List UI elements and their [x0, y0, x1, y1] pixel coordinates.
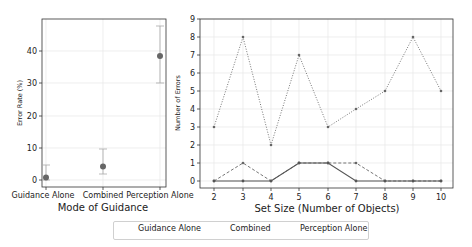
x-tick-label: 5	[296, 193, 301, 202]
x-tick-label: Guidance Alone	[12, 191, 75, 200]
left-panel: 0 10 20 30 40 Guidance Alone Combined Pe…	[12, 19, 194, 213]
y-tick-label: 1	[190, 159, 195, 168]
y-tick-label: 0	[32, 176, 37, 185]
legend-item-perception-alone: Perception Alone	[300, 224, 367, 233]
right-panel: 0 1 2 3 4 5 6 7 8 9 2 3 4 5 6 7 8 9 10 S…	[174, 15, 453, 214]
x-tick-label: 7	[353, 193, 358, 202]
y-tick-label: 10	[27, 144, 37, 153]
point-perception-alone	[157, 53, 163, 59]
x-tick-label: Perception Alone	[126, 191, 194, 200]
y-tick-label: 20	[27, 112, 37, 121]
x-tick-label: 3	[240, 193, 245, 202]
x-tick-label: 4	[268, 193, 273, 202]
y-tick-label: 0	[190, 177, 195, 186]
x-tick-label: 9	[410, 193, 415, 202]
point-guidance-alone	[43, 175, 49, 181]
x-tick-label: 6	[325, 193, 330, 202]
series-combined	[214, 163, 441, 181]
legend-item-combined: Combined	[230, 224, 271, 233]
left-grid	[42, 19, 166, 187]
left-x-axis-label: Mode of Guidance	[58, 202, 149, 213]
figure: 0 10 20 30 40 Guidance Alone Combined Pe…	[0, 0, 472, 247]
markers-combined	[213, 162, 443, 183]
x-tick-label: 2	[211, 193, 216, 202]
right-y-axis-label: Number of Errors	[174, 75, 182, 131]
y-tick-label: 8	[190, 33, 195, 42]
legend: Guidance Alone Combined Perception Alone	[113, 221, 369, 240]
left-axes-frame	[42, 19, 166, 187]
series-guidance-alone	[214, 163, 441, 181]
left-y-tick-labels: 0 10 20 30 40	[27, 47, 37, 185]
y-tick-label: 4	[190, 105, 195, 114]
point-combined	[100, 164, 106, 170]
x-tick-label: 8	[382, 193, 387, 202]
left-x-tick-labels: Guidance Alone Combined Perception Alone	[12, 191, 194, 200]
right-x-tick-labels: 2 3 4 5 6 7 8 9 10	[211, 193, 446, 202]
y-tick-label: 40	[27, 47, 37, 56]
right-y-tick-labels: 0 1 2 3 4 5 6 7 8 9	[190, 15, 195, 186]
y-tick-label: 2	[190, 141, 195, 150]
x-tick-label: 10	[436, 193, 446, 202]
y-tick-label: 6	[190, 69, 195, 78]
y-tick-label: 7	[190, 51, 195, 60]
y-tick-label: 9	[190, 15, 195, 24]
left-y-axis-label: Error Rate (%)	[16, 80, 24, 126]
y-tick-label: 3	[190, 123, 195, 132]
markers-guidance-alone	[213, 162, 443, 183]
legend-item-guidance-alone: Guidance Alone	[138, 224, 201, 233]
y-tick-label: 5	[190, 87, 195, 96]
x-tick-label: Combined	[83, 191, 124, 200]
y-tick-label: 30	[27, 79, 37, 88]
right-x-axis-label: Set Size (Number of Objects)	[254, 203, 399, 214]
